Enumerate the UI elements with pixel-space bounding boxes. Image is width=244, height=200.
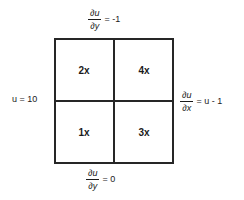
boundary-condition-bottom-value: = 0 [102, 175, 115, 184]
grid-horizontal-divider [54, 100, 174, 102]
partial-derivative-fraction-top: ∂u ∂y [88, 8, 101, 31]
fraction-numerator: ∂u [180, 90, 193, 101]
boundary-condition-diagram: 2x 4x 1x 3x ∂u ∂y = -1 ∂u ∂x = u - 1 ∂u … [0, 0, 244, 200]
grid-cell-top-right-label: 4x [124, 66, 164, 76]
fraction-numerator: ∂u [86, 168, 99, 179]
boundary-condition-left-value: u = 10 [12, 95, 37, 104]
partial-derivative-fraction-bottom: ∂u ∂y [86, 168, 99, 191]
grid-cell-bottom-right-label: 3x [124, 128, 164, 138]
grid-cell-top-left-label: 2x [64, 66, 104, 76]
fraction-denominator: ∂y [86, 180, 99, 191]
fraction-numerator: ∂u [88, 8, 101, 19]
boundary-condition-top: ∂u ∂y = -1 [88, 8, 120, 31]
grid-cell-bottom-left-label: 1x [64, 128, 104, 138]
fraction-denominator: ∂y [88, 20, 101, 31]
boundary-condition-bottom: ∂u ∂y = 0 [86, 168, 115, 191]
boundary-condition-top-value: = -1 [104, 15, 120, 24]
fraction-denominator: ∂x [180, 102, 193, 113]
boundary-condition-right-value: = u - 1 [196, 97, 222, 106]
boundary-condition-right: ∂u ∂x = u - 1 [180, 90, 222, 113]
boundary-condition-left: u = 10 [12, 95, 37, 104]
partial-derivative-fraction-right: ∂u ∂x [180, 90, 193, 113]
